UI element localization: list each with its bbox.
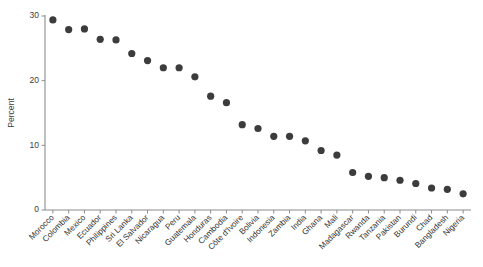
data-point: Bangladesh: 3.2 — [444, 186, 451, 193]
y-tick-labels: 0102030 — [30, 10, 40, 214]
y-axis — [42, 15, 46, 210]
y-axis-title: Percent — [6, 98, 16, 128]
data-point: Ecuador: 26.4 — [97, 36, 104, 43]
x-tick-labels: MoroccoColombiaMexicoEcuadorPhilippinesS… — [27, 213, 466, 252]
data-point: Sri Lanka: 24.2 — [128, 50, 135, 57]
data-point: El Salvador: 23.1 — [144, 57, 151, 64]
data-point: Nigeria: 2.5 — [460, 190, 467, 197]
y-tick-label: 30 — [30, 10, 40, 20]
chart-figure: 0102030 MoroccoColombiaMexicoEcuadorPhil… — [0, 0, 483, 267]
data-point: Chad: 3.4 — [428, 184, 435, 191]
y-tick-label: 10 — [30, 140, 40, 150]
data-point: Bolivia: 12.6 — [254, 125, 261, 132]
data-point: Cambodia: 16.6 — [223, 99, 230, 106]
data-point: Zambia: 11.4 — [286, 133, 293, 140]
data-point: India: 10.7 — [302, 137, 309, 144]
data-point: Pakistan: 4.6 — [396, 177, 403, 184]
data-point: Rwanda: 5.2 — [365, 173, 372, 180]
data-point: Peru: 22 — [176, 64, 183, 71]
data-point: Ghana: 9.2 — [318, 147, 325, 154]
data-point: Colombia: 27.9 — [65, 26, 72, 33]
data-point: Mexico: 28 — [81, 25, 88, 32]
data-point: Indonesia: 11.4 — [270, 133, 277, 140]
data-point: Côte d'Ivoire: 13.2 — [239, 121, 246, 128]
data-points: Morocco: 29.4Colombia: 27.9Mexico: 28Ecu… — [49, 16, 466, 197]
data-point: Mali: 8.5 — [333, 151, 340, 158]
y-axis-title-text: Percent — [6, 98, 16, 128]
scatter-plot: 0102030 MoroccoColombiaMexicoEcuadorPhil… — [0, 0, 483, 267]
data-point: Guatemala: 20.6 — [191, 73, 198, 80]
data-point: Burundi: 4.1 — [412, 180, 419, 187]
data-point: Philippines: 26.3 — [112, 36, 119, 43]
y-tick-label: 20 — [30, 75, 40, 85]
data-point: Honduras: 17.6 — [207, 93, 214, 100]
data-point: Morocco: 29.4 — [49, 16, 56, 23]
y-tick-label: 0 — [34, 204, 39, 214]
data-point: Tanzania: 5 — [381, 174, 388, 181]
data-point: Madagascar: 5.8 — [349, 169, 356, 176]
data-point: Nicaragua: 22 — [160, 64, 167, 71]
x-axis — [45, 210, 471, 214]
